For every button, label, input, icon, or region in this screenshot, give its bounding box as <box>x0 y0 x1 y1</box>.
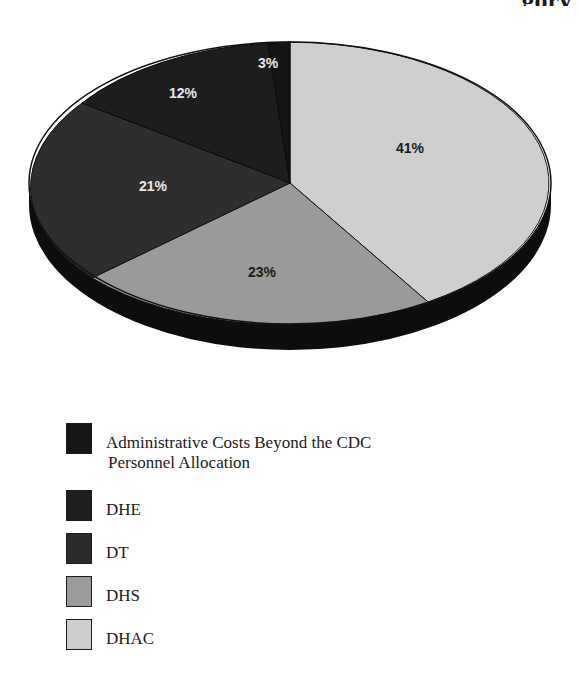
pie-chart: 3% 12% 21% 23% 41% <box>0 0 580 400</box>
legend-swatch-dt <box>66 533 92 564</box>
slice-label-dhs: 23% <box>248 264 277 280</box>
legend-item-dt: DT <box>66 533 129 564</box>
legend-item-dhac: DHAC <box>66 619 154 650</box>
slice-label-dhe: 12% <box>169 85 198 101</box>
legend-label-dhs: DHS <box>106 576 140 606</box>
legend-label-dhe: DHE <box>106 490 141 520</box>
legend-label-dhac: DHAC <box>106 619 154 649</box>
legend-item-dhs: DHS <box>66 576 140 607</box>
legend-item-dhe: DHE <box>66 490 141 521</box>
legend-label-admin-line1: Administrative Costs Beyond the CDC <box>106 433 371 453</box>
legend-label-admin-line2: Personnel Allocation <box>106 453 371 473</box>
legend-swatch-dhac <box>66 619 92 650</box>
slice-label-admin: 3% <box>258 55 279 71</box>
legend-swatch-dhe <box>66 490 92 521</box>
slice-label-dt: 21% <box>139 178 168 194</box>
slice-label-dhac: 41% <box>396 140 425 156</box>
legend-label-dt: DT <box>106 533 129 563</box>
legend-swatch-dhs <box>66 576 92 607</box>
legend-label-admin: Administrative Costs Beyond the CDC Pers… <box>106 423 371 473</box>
legend-swatch-admin <box>66 423 92 454</box>
legend-item-admin: Administrative Costs Beyond the CDC Pers… <box>66 423 371 473</box>
